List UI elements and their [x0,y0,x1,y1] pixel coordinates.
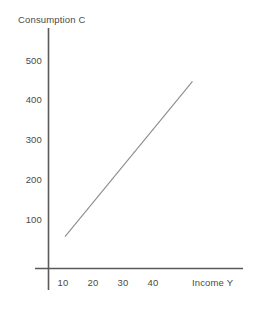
y-tick-label-400: 400 [14,94,42,105]
y-tick-label-100: 100 [14,214,42,225]
y-tick-label-300: 300 [14,134,42,145]
chart-plot-area [0,0,256,311]
x-tick-label-20: 20 [83,277,103,288]
y-tick-label-200: 200 [14,174,42,185]
consumption-function-line [65,81,193,236]
y-tick-label-500: 500 [14,55,42,66]
consumption-income-chart: Consumption C Income Y 500 400 300 200 1… [0,0,256,311]
x-tick-label-40: 40 [143,277,163,288]
x-tick-label-30: 30 [113,277,133,288]
x-tick-label-10: 10 [53,277,73,288]
y-axis-title: Consumption C [18,14,85,25]
x-axis-title: Income Y [192,277,233,288]
